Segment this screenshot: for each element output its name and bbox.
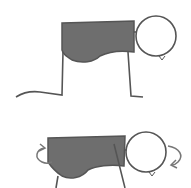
head-1 <box>136 16 176 56</box>
rotate-arrow-left-head <box>39 144 45 151</box>
leg-2a <box>56 176 58 188</box>
figure-all-fours <box>16 16 176 97</box>
torso-2 <box>48 136 125 178</box>
nose-2 <box>149 172 155 176</box>
figure-rotation <box>37 132 181 188</box>
illustration <box>0 0 191 188</box>
front-arm-1 <box>128 52 143 97</box>
nose-1 <box>159 56 165 60</box>
back-leg-1 <box>16 52 63 97</box>
head-2 <box>126 132 166 172</box>
torso-1 <box>62 21 134 62</box>
